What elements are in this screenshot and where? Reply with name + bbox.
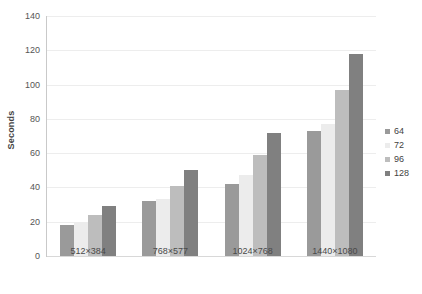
x-axis-category-label: 1440×1080 (294, 246, 376, 256)
y-axis-tick-label: 20 (10, 217, 40, 227)
bar-chart: Seconds 020406080100120140 512×384768×57… (0, 0, 422, 294)
legend-swatch-icon (385, 157, 390, 162)
bar (253, 155, 267, 256)
bar-group (212, 16, 294, 256)
legend-item[interactable]: 64 (385, 124, 409, 138)
plot-area (47, 16, 376, 256)
bar-group (129, 16, 211, 256)
bar (267, 133, 281, 256)
y-axis-tick-label: 80 (10, 114, 40, 124)
legend-swatch-icon (385, 171, 390, 176)
bar-group-bars (294, 16, 376, 256)
legend: 647296128 (385, 124, 409, 180)
x-axis-category-label: 512×384 (47, 246, 129, 256)
y-axis-tick-label: 0 (10, 251, 40, 261)
bar (349, 54, 363, 256)
legend-label: 96 (394, 155, 404, 164)
y-axis-tick-label: 100 (10, 80, 40, 90)
y-axis-tick-label: 120 (10, 45, 40, 55)
legend-item[interactable]: 96 (385, 152, 409, 166)
legend-label: 72 (394, 141, 404, 150)
y-axis-tick-label: 140 (10, 11, 40, 21)
legend-item[interactable]: 128 (385, 166, 409, 180)
bar-group (47, 16, 129, 256)
bar (335, 90, 349, 256)
legend-label: 64 (394, 127, 404, 136)
legend-item[interactable]: 72 (385, 138, 409, 152)
gridline (47, 256, 376, 257)
y-axis-tick-label: 60 (10, 148, 40, 158)
bar-group-bars (129, 16, 211, 256)
bar-group-bars (47, 16, 129, 256)
legend-label: 128 (394, 169, 409, 178)
bar-group (294, 16, 376, 256)
legend-swatch-icon (385, 143, 390, 148)
legend-swatch-icon (385, 129, 390, 134)
bar (321, 124, 335, 256)
bar (307, 131, 321, 256)
bar (239, 175, 253, 256)
bar-group-bars (212, 16, 294, 256)
y-axis-tick-label: 40 (10, 182, 40, 192)
x-axis-category-label: 1024×768 (212, 246, 294, 256)
x-axis-category-label: 768×577 (129, 246, 211, 256)
bar (184, 170, 198, 256)
